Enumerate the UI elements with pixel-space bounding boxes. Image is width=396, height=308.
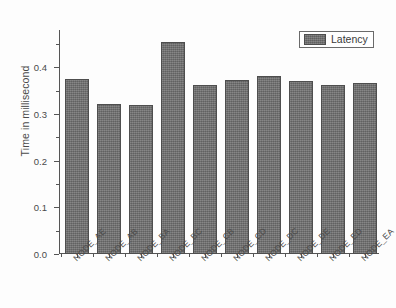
bar-node-bc — [161, 42, 186, 254]
y-tick-label-2: 0.2 — [34, 155, 47, 166]
y-axis-title: Time in millisecond — [19, 41, 31, 181]
legend-label-latency: Latency — [331, 34, 368, 45]
legend-swatch-latency — [304, 34, 326, 45]
y-tick-label-0: 0.0 — [34, 249, 47, 260]
bar-node-ae — [65, 79, 90, 254]
y-tick-label-3: 0.3 — [34, 109, 47, 120]
y-tick-label-4: 0.4 — [34, 62, 47, 73]
chart-legend: Latency — [299, 31, 374, 48]
y-tick-label-1: 0.1 — [34, 202, 47, 213]
y-tick-0: 0.0 — [54, 254, 59, 255]
x-axis-labels: NODE_AENODE_ABNODE_BANODE_BCNODE_CBNODE_… — [59, 256, 389, 308]
bars-layer — [59, 30, 379, 254]
bar-chart: Time in millisecond 0.00.10.20.30.4 NODE… — [0, 0, 396, 308]
plot-area: 0.00.10.20.30.4 — [59, 30, 379, 254]
